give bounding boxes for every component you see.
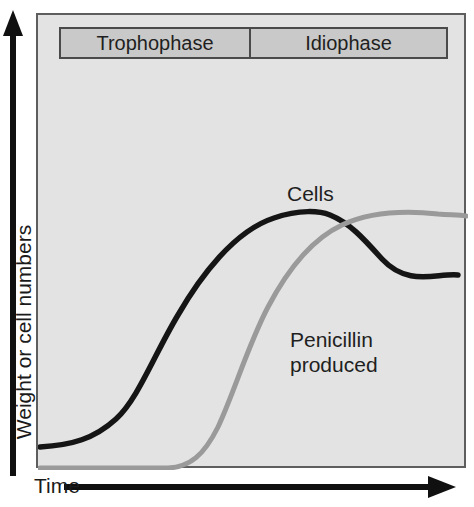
series-label-penicillin: Penicillin produced [290,327,378,377]
x-axis-arrow-icon [64,470,464,504]
series-label-cells: Cells [287,181,334,206]
plot-area: Trophophase Idiophase Cells Penicillin p… [36,13,466,468]
y-axis-title: Weight or cell numbers [10,187,38,477]
curve-group [38,15,468,470]
x-axis-title: Time [34,472,80,500]
penicillin-fermentation-chart: Weight or cell numbers Time Trophophase … [0,0,474,507]
series-curve-cells [40,212,458,447]
